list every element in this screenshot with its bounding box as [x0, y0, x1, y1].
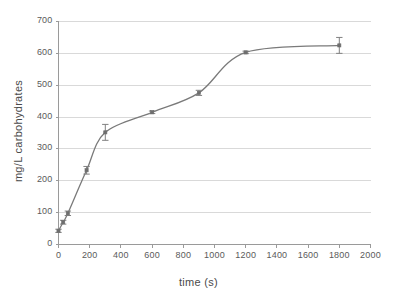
y-tick-label-100: 100 — [20, 206, 53, 216]
y-tick-label-0: 0 — [20, 238, 53, 248]
gridlines — [59, 22, 371, 213]
data-point-180 — [85, 169, 88, 172]
y-tick-label-400: 400 — [20, 111, 53, 121]
y-tick-label-700: 700 — [20, 15, 53, 25]
data-point-900 — [197, 91, 200, 94]
y-tick-label-500: 500 — [20, 79, 53, 89]
data-point-600 — [151, 111, 154, 114]
data-point-30 — [62, 221, 65, 224]
y-tick-label-200: 200 — [20, 174, 53, 184]
data-point-60 — [66, 212, 69, 215]
data-line — [59, 45, 340, 230]
chart-container: 0100200300400500600700 02004006008001000… — [0, 0, 397, 294]
error-bars — [55, 37, 342, 232]
series-line-carbohydrates — [59, 45, 340, 230]
data-point-0 — [57, 229, 60, 232]
data-point-300 — [104, 131, 107, 134]
y-axis-title: mg/L carbohydrates — [12, 41, 24, 221]
y-tick-label-600: 600 — [20, 47, 53, 57]
data-point-1200 — [244, 51, 247, 54]
x-axis-title: time (s) — [0, 276, 397, 288]
x-tick-label-2000: 2000 — [351, 250, 391, 260]
y-tick-label-300: 300 — [20, 142, 53, 152]
data-point-1800 — [338, 44, 341, 47]
